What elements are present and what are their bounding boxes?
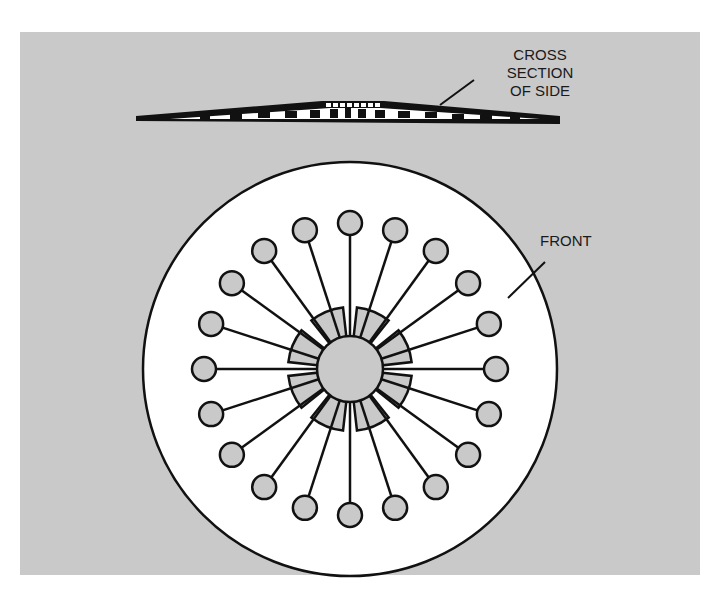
cross-section-label-line1: CROSS — [495, 46, 585, 64]
front-label: FRONT — [540, 232, 592, 250]
cross-section-label: CROSS SECTION OF SIDE — [495, 46, 585, 100]
cross-section-label-line3: OF SIDE — [495, 82, 585, 100]
front-view — [143, 162, 557, 576]
diagram-canvas — [0, 0, 721, 592]
cross-section-label-line2: SECTION — [495, 64, 585, 82]
